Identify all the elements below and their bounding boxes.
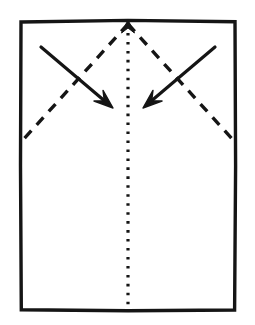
origami-diagram-canvas [0,0,255,325]
origami-diagram [0,0,255,325]
